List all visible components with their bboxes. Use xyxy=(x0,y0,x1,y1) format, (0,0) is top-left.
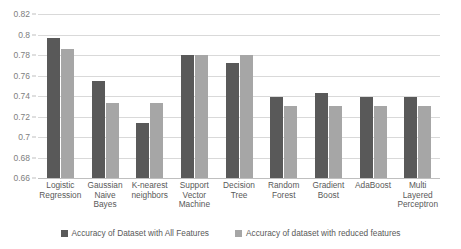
x-category-label: Gaussian Naive Bayes xyxy=(83,181,128,225)
bar xyxy=(136,123,149,178)
legend-label: Accuracy of Dataset with All Features xyxy=(72,229,209,238)
y-tick-mark xyxy=(32,55,36,56)
chart-legend: Accuracy of Dataset with All FeaturesAcc… xyxy=(0,229,461,245)
bar-chart: 0.820.80.780.760.740.720.70.680.66 Logis… xyxy=(0,0,461,249)
gridline xyxy=(38,178,440,179)
bar xyxy=(92,81,105,178)
legend-label: Accuracy of dataset with reduced feature… xyxy=(246,229,401,238)
bar xyxy=(181,55,194,178)
bar xyxy=(284,106,297,178)
bar xyxy=(270,97,283,178)
x-category-label: Random Forest xyxy=(261,181,306,225)
y-tick-mark xyxy=(32,116,36,117)
y-tick-mark xyxy=(32,34,36,35)
bar-group xyxy=(172,14,217,178)
x-category-label: AdaBoost xyxy=(351,181,396,225)
bar-group xyxy=(306,14,351,178)
bar-group xyxy=(395,14,440,178)
bar-group xyxy=(351,14,396,178)
y-tick-label: 0.78 xyxy=(13,51,30,60)
bar xyxy=(150,103,163,178)
y-tick-label: 0.72 xyxy=(13,112,30,121)
y-tick-label: 0.76 xyxy=(13,71,30,80)
bar xyxy=(61,49,74,178)
bar xyxy=(329,106,342,178)
y-tick-mark xyxy=(32,137,36,138)
bar xyxy=(240,55,253,178)
plot-area xyxy=(38,14,440,178)
legend-item[interactable]: Accuracy of Dataset with All Features xyxy=(61,229,209,238)
x-category-label: Decision Tree xyxy=(217,181,262,225)
bar xyxy=(404,97,417,178)
bar xyxy=(418,106,431,178)
y-tick-mark xyxy=(32,178,36,179)
bar xyxy=(106,103,119,178)
bar-group xyxy=(261,14,306,178)
x-category-label: Support Vector Machine xyxy=(172,181,217,225)
y-tick-mark xyxy=(32,75,36,76)
y-tick-label: 0.7 xyxy=(18,133,30,142)
bar xyxy=(195,55,208,178)
bar-group xyxy=(127,14,172,178)
legend-swatch-icon xyxy=(61,230,68,237)
x-category-label: K-nearest neighbors xyxy=(127,181,172,225)
x-category-label: Multi Layered Perceptron xyxy=(395,181,440,225)
bars-layer xyxy=(38,14,440,178)
bar xyxy=(374,106,387,178)
y-tick-mark xyxy=(32,157,36,158)
y-tick-label: 0.74 xyxy=(13,92,30,101)
bar-group xyxy=(38,14,83,178)
x-category-label: Gradient Boost xyxy=(306,181,351,225)
y-axis: 0.820.80.780.760.740.720.70.680.66 xyxy=(0,14,36,178)
bar xyxy=(47,38,60,178)
y-tick-mark xyxy=(32,96,36,97)
x-category-label: Logistic Regression xyxy=(38,181,83,225)
x-axis: Logistic RegressionGaussian Naive BayesK… xyxy=(38,181,440,225)
y-tick-label: 0.82 xyxy=(13,10,30,19)
y-tick-label: 0.68 xyxy=(13,153,30,162)
y-tick-label: 0.8 xyxy=(18,30,30,39)
bar-group xyxy=(83,14,128,178)
bar xyxy=(315,93,328,178)
y-tick-label: 0.66 xyxy=(13,174,30,183)
bar xyxy=(360,97,373,178)
legend-swatch-icon xyxy=(235,230,242,237)
bar xyxy=(226,63,239,178)
y-tick-mark xyxy=(32,14,36,15)
bar-group xyxy=(217,14,262,178)
legend-item[interactable]: Accuracy of dataset with reduced feature… xyxy=(235,229,401,238)
